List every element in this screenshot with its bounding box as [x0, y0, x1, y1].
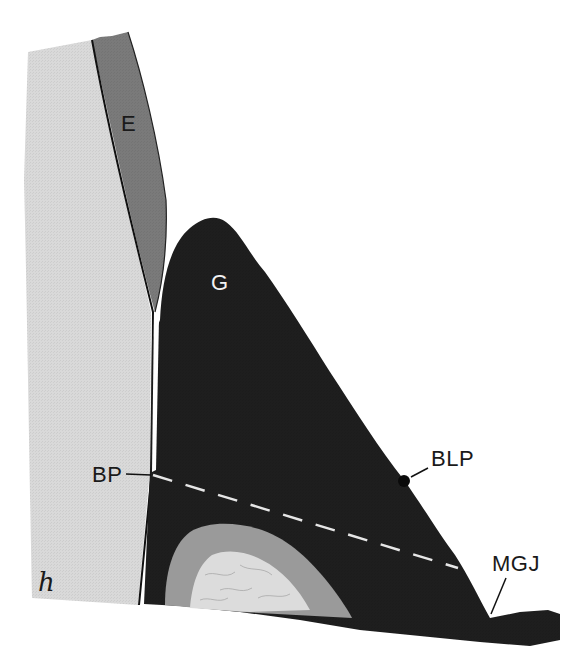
- label-mucogingival-junction: MGJ: [492, 553, 540, 575]
- label-gingiva: G: [211, 272, 229, 294]
- mgj-leader-line: [491, 578, 506, 614]
- label-enamel: E: [121, 113, 136, 135]
- blp-marker-dot: [398, 475, 410, 487]
- label-bone-peak: BP: [92, 464, 122, 486]
- label-bone-level-point: BLP: [431, 448, 474, 470]
- hand-mark: h: [38, 567, 55, 597]
- blp-leader-line: [411, 468, 428, 477]
- bp-leader-line: [126, 474, 151, 475]
